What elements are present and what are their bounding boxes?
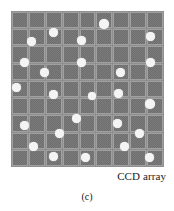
ccd-photosite-cell [147, 115, 163, 131]
ccd-photosite-cell [113, 98, 129, 114]
ccd-photosite-cell [46, 133, 62, 149]
ccd-photosite-cell [63, 133, 79, 149]
ccd-photosite-cell [63, 150, 79, 166]
ccd-photosite-cell [12, 133, 28, 149]
ccd-photosite-cell [147, 133, 163, 149]
ccd-photosite-cell [96, 115, 112, 131]
ccd-photosite-cell [113, 12, 129, 28]
ccd-photosite-cell [63, 46, 79, 62]
ccd-photosite-cell [147, 12, 163, 28]
ccd-photosite-cell [96, 81, 112, 97]
ccd-photosite-cell [46, 150, 62, 166]
ccd-photosite-cell [29, 150, 45, 166]
ccd-photosite-cell [12, 150, 28, 166]
ccd-photosite-cell [80, 98, 96, 114]
ccd-photosite-cell [80, 46, 96, 62]
ccd-photosite-cell [130, 29, 146, 45]
ccd-photosite-cell [29, 81, 45, 97]
ccd-photosite-cell [46, 98, 62, 114]
ccd-photosite-cell [96, 150, 112, 166]
ccd-photosite-cell [80, 115, 96, 131]
ccd-photosite-cell [80, 29, 96, 45]
ccd-photosite-cell [113, 115, 129, 131]
ccd-photosite-cell [12, 29, 28, 45]
ccd-photosite-cell [113, 150, 129, 166]
ccd-photosite-cell [46, 29, 62, 45]
ccd-photosite-cell [29, 64, 45, 80]
ccd-photosite-cell [96, 29, 112, 45]
ccd-photosite-cell [147, 81, 163, 97]
ccd-photosite-cell [96, 133, 112, 149]
ccd-photosite-cell [130, 115, 146, 131]
ccd-photosite-cell [130, 81, 146, 97]
ccd-photosite-cell [96, 46, 112, 62]
ccd-photosite-cell [147, 150, 163, 166]
ccd-photosite-cell [63, 115, 79, 131]
ccd-photosite-cell [130, 98, 146, 114]
ccd-photosite-cell [46, 64, 62, 80]
ccd-array-grid [11, 11, 164, 167]
ccd-photosite-cell [12, 64, 28, 80]
ccd-photosite-cell [29, 98, 45, 114]
ccd-photosite-cell [46, 115, 62, 131]
ccd-photosite-cell [29, 29, 45, 45]
ccd-photosite-cell [12, 98, 28, 114]
ccd-photosite-cell [147, 64, 163, 80]
ccd-photosite-cell [80, 150, 96, 166]
ccd-photosite-cell [12, 115, 28, 131]
ccd-photosite-cell [96, 98, 112, 114]
ccd-photosite-cell [63, 81, 79, 97]
ccd-photosite-cell [46, 12, 62, 28]
ccd-photosite-cell [113, 29, 129, 45]
ccd-photosite-cell [130, 150, 146, 166]
ccd-photosite-cell [130, 64, 146, 80]
ccd-photosite-cell [80, 64, 96, 80]
ccd-photosite-cell [12, 46, 28, 62]
ccd-photosite-cell [113, 46, 129, 62]
ccd-photosite-cell [29, 133, 45, 149]
ccd-photosite-cell [63, 12, 79, 28]
ccd-photosite-cell [12, 12, 28, 28]
ccd-photosite-cell [96, 12, 112, 28]
ccd-photosite-cell [46, 81, 62, 97]
figure-caption: (c) [0, 191, 174, 202]
ccd-photosite-cell [113, 133, 129, 149]
ccd-photosite-cell [80, 12, 96, 28]
ccd-photosite-cell [113, 81, 129, 97]
ccd-photosite-cell [29, 46, 45, 62]
ccd-photosite-cell [63, 64, 79, 80]
ccd-photosite-cell [113, 64, 129, 80]
ccd-photosite-cell [147, 29, 163, 45]
ccd-photosite-cell [130, 133, 146, 149]
ccd-array-figure: CCD array (c) [0, 0, 174, 211]
ccd-cell-layer [11, 11, 164, 167]
ccd-photosite-cell [147, 98, 163, 114]
ccd-photosite-cell [80, 133, 96, 149]
ccd-photosite-cell [12, 81, 28, 97]
ccd-photosite-cell [130, 12, 146, 28]
ccd-photosite-cell [63, 98, 79, 114]
ccd-photosite-cell [147, 46, 163, 62]
ccd-photosite-cell [46, 46, 62, 62]
ccd-array-label: CCD array [117, 170, 166, 182]
ccd-photosite-cell [130, 46, 146, 62]
ccd-photosite-cell [29, 115, 45, 131]
ccd-photosite-cell [80, 81, 96, 97]
ccd-photosite-cell [29, 12, 45, 28]
ccd-photosite-cell [63, 29, 79, 45]
ccd-photosite-cell [96, 64, 112, 80]
